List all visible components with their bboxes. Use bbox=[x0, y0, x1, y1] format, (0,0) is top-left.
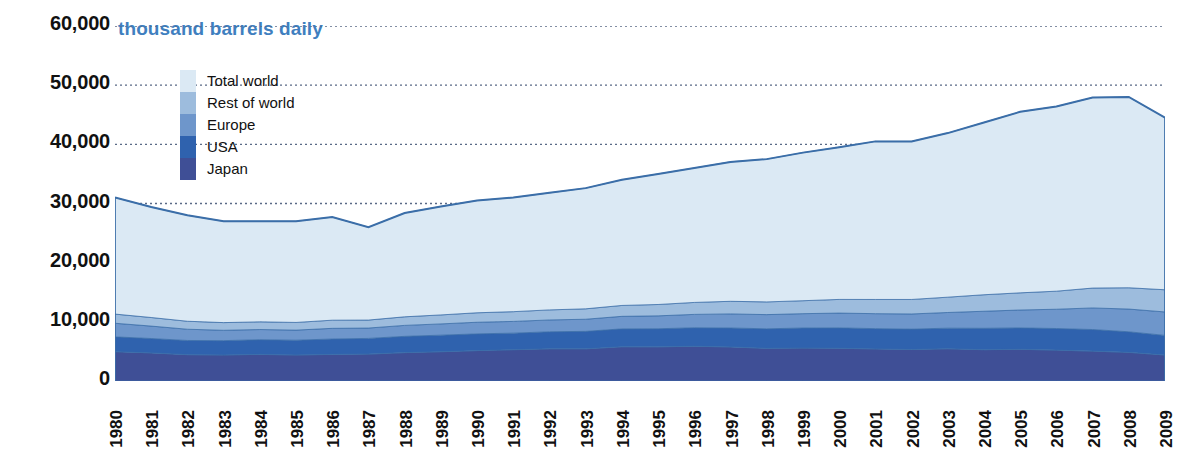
x-axis-tick: 1993 bbox=[578, 410, 598, 448]
x-axis-tick: 1988 bbox=[397, 410, 417, 448]
chart-legend: Total worldRest of worldEuropeUSAJapan bbox=[180, 70, 440, 182]
legend-item-japan[interactable]: Japan bbox=[207, 158, 295, 180]
y-axis-tick: 10,000 bbox=[0, 308, 110, 331]
x-axis-tick: 1994 bbox=[614, 410, 634, 448]
x-axis-tick: 1980 bbox=[107, 410, 127, 448]
y-axis-tick: 50,000 bbox=[0, 71, 110, 94]
x-axis-tick: 2008 bbox=[1121, 410, 1141, 448]
legend-item-total-world[interactable]: Total world bbox=[207, 70, 295, 92]
y-axis-tick: 20,000 bbox=[0, 249, 110, 272]
x-axis-tick: 1995 bbox=[650, 410, 670, 448]
x-axis-tick: 1982 bbox=[179, 410, 199, 448]
x-axis-tick: 1999 bbox=[795, 410, 815, 448]
y-axis-tick: 30,000 bbox=[0, 190, 110, 213]
legend-swatch-total-world bbox=[180, 70, 196, 92]
legend-swatch-usa bbox=[180, 136, 196, 158]
legend-item-europe[interactable]: Europe bbox=[207, 114, 295, 136]
x-axis-tick: 2001 bbox=[867, 410, 887, 448]
x-axis-tick: 2004 bbox=[976, 410, 996, 448]
x-axis-tick: 1987 bbox=[360, 410, 380, 448]
x-axis-tick: 2009 bbox=[1157, 410, 1177, 448]
legend-label-list: Total worldRest of worldEuropeUSAJapan bbox=[207, 70, 295, 180]
chart-root: thousand barrels daily 010,00020,00030,0… bbox=[0, 0, 1179, 452]
legend-color-swatch bbox=[180, 70, 196, 180]
y-axis-tick: 40,000 bbox=[0, 130, 110, 153]
x-axis-tick: 1996 bbox=[686, 410, 706, 448]
x-axis-tick: 2006 bbox=[1048, 410, 1068, 448]
x-axis-tick: 1990 bbox=[469, 410, 489, 448]
legend-item-usa[interactable]: USA bbox=[207, 136, 295, 158]
x-axis-tick: 1992 bbox=[541, 410, 561, 448]
x-axis-tick: 1984 bbox=[252, 410, 272, 448]
x-axis-tick: 1981 bbox=[143, 410, 163, 448]
legend-swatch-europe bbox=[180, 114, 196, 136]
legend-item-rest-of-world[interactable]: Rest of world bbox=[207, 92, 295, 114]
x-axis-tick: 2002 bbox=[904, 410, 924, 448]
x-axis-tick: 2003 bbox=[940, 410, 960, 448]
x-axis-tick: 1986 bbox=[324, 410, 344, 448]
x-axis-tick: 2007 bbox=[1085, 410, 1105, 448]
x-axis-tick: 1997 bbox=[723, 410, 743, 448]
y-axis-tick: 0 bbox=[0, 367, 110, 390]
legend-swatch-japan bbox=[180, 158, 196, 180]
x-axis-tick: 1989 bbox=[433, 410, 453, 448]
y-axis-tick: 60,000 bbox=[0, 12, 110, 35]
x-axis-tick: 1985 bbox=[288, 410, 308, 448]
x-axis-tick: 1991 bbox=[505, 410, 525, 448]
x-axis-tick: 2005 bbox=[1012, 410, 1032, 448]
x-axis-tick: 1998 bbox=[759, 410, 779, 448]
x-axis-tick: 2000 bbox=[831, 410, 851, 448]
y-axis: 010,00020,00030,00040,00050,00060,000 bbox=[0, 0, 110, 452]
x-axis-tick: 1983 bbox=[216, 410, 236, 448]
legend-swatch-rest-of-world bbox=[180, 92, 196, 114]
x-axis: 1980198119821983198419851986198719881989… bbox=[115, 386, 1165, 448]
